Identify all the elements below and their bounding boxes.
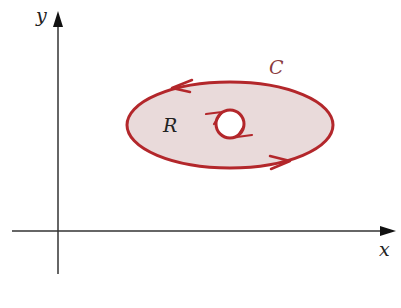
curve-label-c: C	[269, 56, 284, 78]
diagram-svg	[0, 0, 401, 308]
y-axis-label: y	[36, 4, 47, 26]
x-axis-arrow-icon	[380, 226, 396, 236]
x-axis-label: x	[379, 238, 390, 260]
diagram-canvas: y x R C	[0, 0, 401, 308]
region-label-r: R	[163, 114, 177, 136]
y-axis-arrow-icon	[53, 11, 63, 27]
